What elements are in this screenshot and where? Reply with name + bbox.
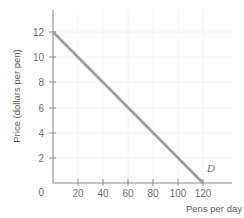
x-tick-label-120: 120: [195, 188, 212, 199]
x-tick-label-80: 80: [147, 188, 159, 199]
x-axis-title: Pens per day: [186, 203, 242, 214]
x-tick-label-60: 60: [122, 188, 134, 199]
y-tick-label-10: 10: [33, 52, 45, 63]
x-tick-label-40: 40: [97, 188, 109, 199]
y-tick-label-2: 2: [38, 153, 44, 164]
y-tick-label-4: 4: [38, 128, 44, 139]
chart-canvas: 12 10 8 6 4 2 0 20 40 60 80 100 120 D Pe…: [0, 0, 244, 218]
y-tick-label-8: 8: [38, 77, 44, 88]
x-axis-tick-labels: 20 40 60 80 100 120: [72, 188, 211, 199]
y-axis-tick-labels: 12 10 8 6 4 2 0: [33, 27, 45, 198]
y-tick-label-6: 6: [38, 103, 44, 114]
x-tick-label-100: 100: [170, 188, 187, 199]
y-axis-title: Price (dollars per pen): [11, 49, 22, 142]
y-tick-label-0: 0: [38, 187, 44, 198]
gridlines: [53, 10, 232, 183]
demand-curve-chart: 12 10 8 6 4 2 0 20 40 60 80 100 120 D Pe…: [0, 0, 244, 218]
y-tick-label-12: 12: [33, 27, 45, 38]
x-tick-label-20: 20: [72, 188, 84, 199]
curve-label-d: D: [206, 162, 215, 174]
